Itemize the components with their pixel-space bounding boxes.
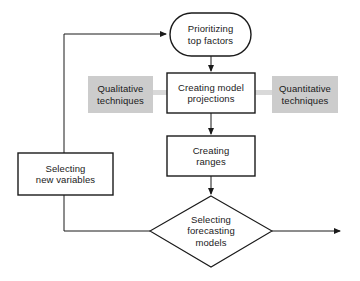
creating-ranges-shape[interactable] — [167, 136, 255, 176]
qualitative-techniques-box[interactable] — [88, 76, 153, 113]
quantitative-techniques-box[interactable] — [272, 76, 338, 113]
flowchart-graphics — [0, 0, 360, 281]
selecting-new-variables-shape[interactable] — [18, 153, 113, 195]
prioritizing-top-factors-shape[interactable] — [170, 13, 251, 56]
path-decision-to-new-variables — [64, 195, 150, 231]
selecting-forecasting-models-shape[interactable] — [150, 196, 272, 267]
creating-model-projections-shape[interactable] — [167, 73, 255, 113]
flowchart-canvas: Prioritizing top factors Qualitative tec… — [0, 0, 360, 281]
